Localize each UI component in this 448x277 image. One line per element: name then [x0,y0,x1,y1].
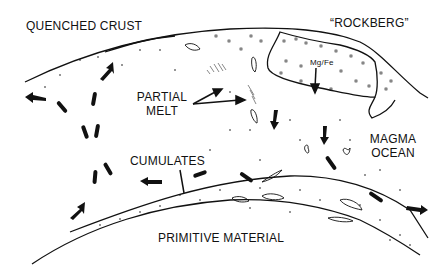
label-mg-fe: Mg/Fe [310,58,334,67]
partial-melt-region-1 [207,63,226,74]
flow-arrow-right [406,205,428,215]
flow-arrow-down-2 [320,126,329,145]
label-magma-ocean-line1: MAGMA [362,132,424,146]
cumulates-upper-line [70,176,428,238]
crust-surface-line [25,28,428,98]
flow-arrow-down-1 [270,110,279,130]
flow-arrow-up-left-lower [70,202,85,220]
flow-arrow-left-lower [140,177,162,186]
label-cumulates: CUMULATES [130,154,205,168]
rockberg-tail [369,97,395,118]
label-partial-melt-line1: PARTIAL [130,90,194,104]
label-partial-melt: PARTIAL MELT [130,90,194,118]
label-rockberg: “ROCKBERG” [330,16,409,30]
label-partial-melt-line2: MELT [130,104,194,118]
flow-arrow-left-upper [25,92,46,103]
label-magma-ocean-line2: OCEAN [362,146,424,160]
label-quenched-crust: QUENCHED CRUST [26,19,142,33]
flow-arrow-up-left [100,62,114,81]
partial-melt-region-2 [248,85,256,104]
label-primitive-material: PRIMITIVE MATERIAL [158,231,284,245]
label-magma-ocean: MAGMA OCEAN [362,132,424,160]
